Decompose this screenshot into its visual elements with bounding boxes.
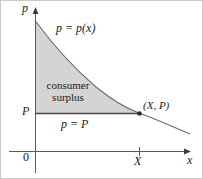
demand-curve-label: p = p(x) [56, 22, 95, 34]
x-axis-label: x [187, 154, 192, 166]
consumer-surplus-figure: p x 0 P X p = p(x) p = P (X, P) consumer… [0, 0, 203, 179]
y-axis-tick-label-P: P [22, 105, 29, 117]
consumer-surplus-label: consumer surplus [37, 80, 99, 103]
equilibrium-point-label: (X, P) [143, 100, 169, 111]
origin-label: 0 [23, 151, 29, 163]
equilibrium-point-marker [137, 111, 142, 116]
figure-canvas [1, 1, 203, 179]
consumer-surplus-label-line1: consumer [37, 80, 99, 92]
y-axis-arrowhead [33, 7, 39, 14]
p-axis-label: p [22, 2, 28, 14]
x-axis-tick-label-X: X [134, 155, 141, 167]
price-line-label: p = P [61, 118, 88, 130]
consumer-surplus-label-line2: surplus [37, 92, 99, 104]
